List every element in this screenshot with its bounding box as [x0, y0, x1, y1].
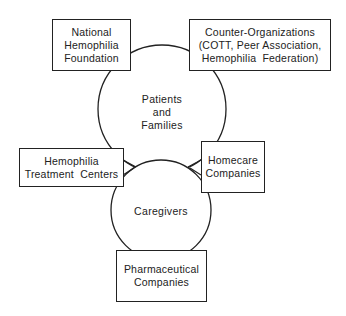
box-line: Pharmaceutical [124, 263, 199, 276]
box-line: Hemophilia [44, 155, 99, 168]
patients-families-label: Patients and Families [122, 93, 202, 132]
box-line: Hemophilia Federation) [202, 52, 319, 65]
box-line: Counter-Organizations [205, 26, 315, 39]
pharmaceutical-companies-box: Pharmaceutical Companies [116, 250, 207, 302]
box-line: Hemophilia [64, 39, 119, 52]
caregivers-label: Caregivers [121, 205, 201, 218]
box-line: National [71, 26, 111, 39]
box-line: Homecare [208, 154, 258, 167]
national-hemophilia-foundation-box: National Hemophilia Foundation [52, 19, 131, 71]
label-line: and [153, 106, 171, 119]
counter-organizations-box: Counter-Organizations (COTT, Peer Associ… [189, 19, 331, 71]
box-line: (COTT, Peer Association, [199, 39, 322, 52]
box-line: Companies [134, 276, 189, 289]
homecare-companies-box: Homecare Companies [201, 141, 265, 193]
box-line: Companies [206, 167, 261, 180]
box-line: Treatment Centers [25, 168, 119, 181]
label-line: Patients [142, 93, 182, 106]
label-line: Caregivers [134, 205, 188, 218]
box-line: Foundation [64, 52, 119, 65]
label-line: Families [141, 119, 183, 132]
hemophilia-treatment-centers-box: Hemophilia Treatment Centers [19, 148, 124, 187]
